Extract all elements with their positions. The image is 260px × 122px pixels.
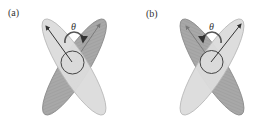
angle-theta-label: θ (209, 21, 214, 32)
panel-b: (b) θ (130, 0, 260, 122)
panel-a: (a) θ (0, 0, 130, 122)
orbital-diagram-b: θ (130, 0, 260, 122)
angle-theta-label: θ (71, 21, 76, 32)
orbital-diagram-a: θ (0, 0, 130, 122)
